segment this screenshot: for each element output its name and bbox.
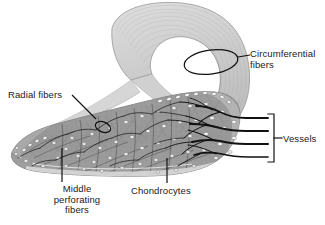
label-chondrocytes: Chondrocytes <box>131 186 191 197</box>
label-circumferential-line2: fibers <box>250 59 274 70</box>
label-middle-line2: perforating <box>54 194 101 205</box>
label-radial-fibers: Radial fibers <box>8 90 62 101</box>
label-middle-line3: fibers <box>65 204 89 215</box>
vessels-bracket <box>268 114 282 162</box>
label-middle-line1: Middle <box>63 183 92 194</box>
label-circumferential-fibers: Circumferentialfibers <box>250 49 315 70</box>
label-middle-perforating-fibers: Middleperforatingfibers <box>39 184 115 216</box>
label-circumferential-line1: Circumferential <box>250 48 315 59</box>
label-vessels: Vessels <box>283 134 316 145</box>
